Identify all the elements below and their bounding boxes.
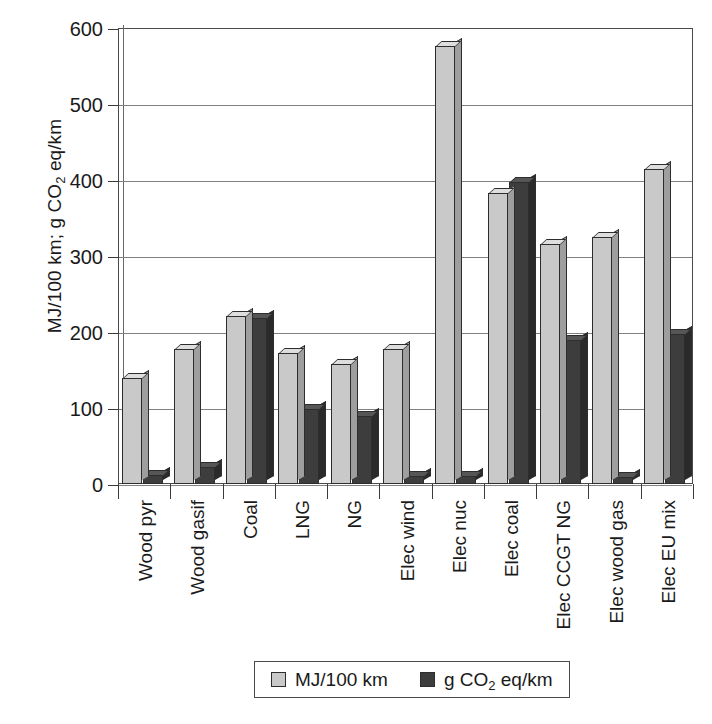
x-axis-label: Elec CCGT NG (564, 500, 586, 630)
bar-group (588, 28, 640, 484)
bar-side-face (267, 310, 274, 480)
x-axis-tick (588, 484, 589, 499)
legend-swatch-icon (271, 672, 286, 687)
bar-group (379, 28, 431, 484)
bar-group (118, 28, 170, 484)
x-axis-tick (379, 484, 380, 499)
bar-chart-figure: MJ/100 km; g CO2 eq/km 01002003004005006… (0, 0, 712, 724)
x-axis-label-text: Wood gasif (187, 500, 209, 595)
x-axis-labels: Wood pyrWood gasifCoalLNGNGElec windElec… (118, 500, 693, 650)
bar-co2 (456, 476, 476, 484)
bar-side-face (351, 356, 358, 480)
x-axis-label: NG (355, 500, 377, 529)
x-axis-label: Elec coal (512, 500, 534, 577)
bar-mj (122, 378, 142, 484)
bar-mj (488, 193, 508, 484)
bar-mj (540, 244, 560, 484)
bar-front-face (592, 237, 612, 484)
x-axis-label-text: Elec wood gas (606, 500, 628, 624)
y-axis-title-post: eq/km (44, 119, 65, 177)
bar-group (484, 28, 536, 484)
bar-side-face (142, 370, 149, 480)
bar-mj (435, 46, 455, 484)
bar-group (275, 28, 327, 484)
bar-side-face (372, 408, 379, 480)
x-axis-tick (170, 484, 171, 499)
bar-mj (278, 353, 298, 484)
x-axis-label-text: Elec CCGT NG (553, 500, 575, 630)
bar-mj (383, 349, 403, 484)
x-axis-tick (432, 484, 433, 499)
y-axis-tick-label: 400 (70, 170, 103, 193)
legend-label: g CO2 eq/km (444, 669, 553, 691)
y-axis-title-pre: MJ/100 km; g CO (44, 184, 65, 333)
bar-mj (331, 364, 351, 484)
bar-front-face (613, 477, 633, 484)
x-axis-label-text: Elec coal (501, 500, 523, 577)
bar-co2 (613, 477, 633, 484)
y-axis-tick-label: 600 (70, 18, 103, 41)
bar-side-face (685, 326, 692, 480)
x-axis-tick (536, 484, 537, 499)
bar-group (223, 28, 275, 484)
bar-side-face (319, 401, 326, 480)
bar-side-face (612, 229, 619, 480)
y-axis-tick-label: 200 (70, 322, 103, 345)
y-axis-tick-label: 0 (92, 474, 103, 497)
x-axis-label-text: NG (344, 500, 366, 529)
bar-front-face (331, 364, 351, 484)
x-axis-label: Coal (251, 500, 273, 539)
bar-side-face (403, 341, 410, 480)
bar-side-face (560, 236, 567, 480)
legend-swatch-icon (420, 672, 435, 687)
bar-front-face (488, 193, 508, 484)
x-axis-tick (223, 484, 224, 499)
bar-group (432, 28, 484, 484)
x-axis-label-text: Wood pyr (135, 500, 157, 581)
bar-front-face (383, 349, 403, 484)
bar-group (170, 28, 222, 484)
legend-item: g CO2 eq/km (420, 669, 553, 691)
x-axis-label-text: Elec EU mix (658, 500, 680, 603)
x-axis-tick (118, 484, 119, 499)
x-axis-label: LNG (303, 500, 325, 539)
x-axis-label: Elec nuc (460, 500, 482, 573)
bar-front-face (540, 244, 560, 484)
x-axis-label-text: LNG (292, 500, 314, 539)
x-axis-label: Elec EU mix (669, 500, 691, 603)
x-axis-label: Wood gasif (198, 500, 220, 595)
x-axis-tick (275, 484, 276, 499)
bar-group (641, 28, 693, 484)
bar-front-face (174, 349, 194, 484)
bar-front-face (456, 476, 476, 484)
x-axis-label-text: Coal (240, 500, 262, 539)
legend-item: MJ/100 km (271, 669, 388, 691)
bar-side-face (246, 308, 253, 480)
x-axis-tick (327, 484, 328, 499)
bar-mj (644, 169, 664, 484)
legend-label: MJ/100 km (295, 669, 388, 691)
bar-side-face (581, 332, 588, 480)
x-axis-tick (641, 484, 642, 499)
bar-front-face (278, 353, 298, 484)
x-axis-label: Elec wind (408, 500, 430, 581)
y-axis-title: MJ/100 km; g CO2 eq/km (44, 76, 66, 376)
y-axis-tick-label: 300 (70, 246, 103, 269)
y-axis-tick-label: 100 (70, 398, 103, 421)
x-axis-tick (484, 484, 485, 499)
bar-front-face (435, 46, 455, 484)
bar-mj (592, 237, 612, 484)
bar-front-face (122, 378, 142, 484)
x-axis-label-text: Elec wind (397, 500, 419, 581)
x-axis-tick (693, 484, 694, 499)
bar-mj (174, 349, 194, 484)
x-axis-label-text: Elec nuc (449, 500, 471, 573)
bar-front-face (644, 169, 664, 484)
bar-group (536, 28, 588, 484)
x-axis-label: Elec wood gas (617, 500, 639, 624)
x-axis-label: Wood pyr (146, 500, 168, 581)
bar-side-face (529, 174, 536, 480)
bar-mj (226, 316, 246, 484)
x-axis-ticks (118, 484, 693, 500)
y-axis-tick-label: 500 (70, 94, 103, 117)
